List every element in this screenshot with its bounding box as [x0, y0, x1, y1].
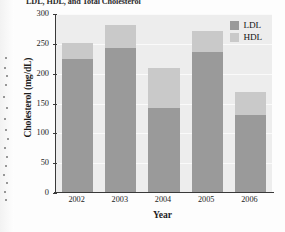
scan-speck: [4, 67, 6, 69]
bar-segment-ldl-2004[interactable]: [148, 108, 179, 193]
x-tick-label-2002: 2002: [57, 195, 97, 204]
chart-legend: LDL HDL: [227, 18, 266, 44]
y-tick-mark: [53, 104, 57, 105]
legend-item-hdl[interactable]: HDL: [230, 32, 262, 42]
y-tick-mark: [53, 14, 57, 15]
x-tick-label-2005: 2005: [186, 195, 226, 204]
scan-speck: [6, 156, 8, 158]
legend-label-ldl: LDL: [243, 20, 261, 30]
scan-speck: [5, 84, 7, 86]
scan-speck: [6, 182, 8, 184]
bar-segment-ldl-2006[interactable]: [235, 115, 266, 193]
bar-2004[interactable]: [148, 68, 179, 193]
y-tick-label: 150: [9, 100, 49, 108]
bar-segment-hdl-2005[interactable]: [192, 31, 223, 51]
scan-speck: [6, 107, 8, 109]
scan-speck: [5, 129, 7, 131]
y-tick-label: 0: [9, 189, 49, 197]
bar-segment-ldl-2005[interactable]: [192, 52, 223, 193]
y-tick-mark: [53, 163, 57, 164]
bar-segment-hdl-2003[interactable]: [105, 25, 136, 48]
bar-segment-hdl-2006[interactable]: [235, 92, 266, 115]
chart-title: LDL, HDL, and Total Cholesterol: [26, 0, 256, 7]
scan-speck: [5, 165, 7, 167]
scan-speck: [4, 118, 6, 120]
y-tick-mark: [53, 44, 57, 45]
x-axis-line: [54, 192, 274, 193]
scan-speck: [4, 191, 6, 193]
y-tick-label: 50: [9, 159, 49, 167]
legend-label-hdl: HDL: [243, 32, 262, 42]
legend-swatch-hdl: [230, 33, 239, 42]
bar-segment-ldl-2002[interactable]: [62, 59, 93, 193]
y-tick-label: 100: [9, 129, 49, 137]
bar-2006[interactable]: [235, 92, 266, 193]
bar-segment-hdl-2004[interactable]: [148, 68, 179, 109]
bar-2002[interactable]: [62, 43, 93, 193]
legend-item-ldl[interactable]: LDL: [230, 20, 262, 30]
x-tick-label-2004: 2004: [143, 195, 183, 204]
scan-speck: [5, 199, 7, 201]
scan-speck: [5, 57, 7, 59]
y-tick-mark: [53, 74, 57, 75]
bar-2005[interactable]: [192, 31, 223, 193]
x-axis-title: Year: [55, 209, 270, 220]
y-tick-label: 250: [9, 40, 49, 48]
scan-speck: [4, 147, 6, 149]
x-tick-label-2006: 2006: [229, 195, 269, 204]
x-tick-label-2003: 2003: [100, 195, 140, 204]
gridline: [56, 14, 272, 15]
chart-figure: LDL, HDL, and Total Cholesterol Choleste…: [0, 0, 285, 232]
bar-2003[interactable]: [105, 25, 136, 193]
y-tick-label: 300: [9, 10, 49, 18]
plot-area: LDL HDL: [55, 14, 272, 193]
scan-speck: [7, 138, 9, 140]
y-tick-mark: [53, 133, 57, 134]
bar-segment-ldl-2003[interactable]: [105, 48, 136, 193]
bar-segment-hdl-2002[interactable]: [62, 43, 93, 59]
scan-speck: [3, 96, 5, 98]
legend-swatch-ldl: [230, 21, 239, 30]
y-axis-title: Cholesterol (mg/dL): [22, 13, 33, 183]
scan-speck: [6, 75, 8, 77]
scan-speck: [3, 174, 5, 176]
y-tick-label: 200: [9, 70, 49, 78]
